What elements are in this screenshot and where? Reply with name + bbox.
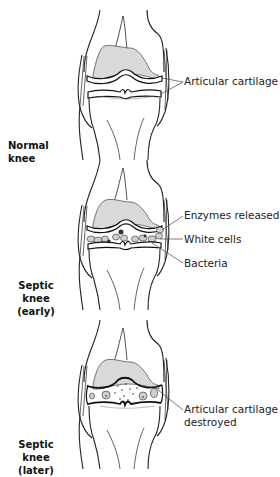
callout-articular-cartilage: Articular cartilage	[184, 75, 278, 88]
panel-septic-knee-later: Articular cartilage destroyed Septic kne…	[0, 310, 270, 469]
panel-septic-knee-early: Enzymes released White cells Bacteria Se…	[0, 150, 270, 310]
callout-enzymes-released: Enzymes released	[184, 209, 279, 222]
callout-bacteria: Bacteria	[184, 257, 228, 270]
panel-normal-knee: Articular cartilage Normal knee	[0, 0, 270, 160]
stage-label-septic-later: Septic knee (later)	[6, 438, 66, 477]
callout-line2: destroyed	[184, 416, 278, 429]
stage-label-line1: Septic knee	[6, 279, 66, 305]
callout-articular-cartilage-destroyed: Articular cartilage destroyed	[184, 403, 278, 429]
stage-label-line1: Septic knee	[6, 438, 66, 464]
callout-line1: Articular cartilage	[184, 403, 278, 416]
callout-white-cells: White cells	[184, 233, 241, 246]
stage-label-line2: (later)	[6, 464, 66, 477]
